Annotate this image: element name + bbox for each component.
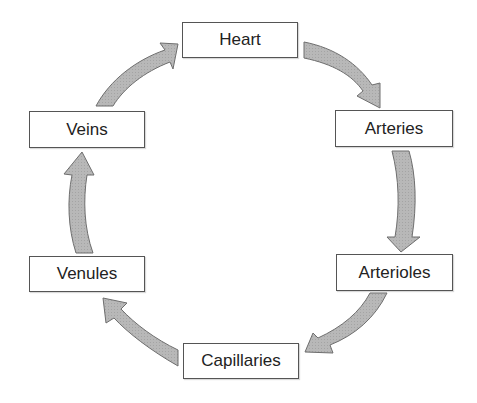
node-label-arteries: Arteries	[365, 119, 424, 139]
node-label-veins: Veins	[66, 120, 108, 140]
node-label-capillaries: Capillaries	[201, 351, 280, 371]
circulation-cycle-diagram: Heart Arteries Arterioles Capillaries Ve…	[0, 0, 477, 403]
node-heart: Heart	[182, 22, 298, 58]
node-capillaries: Capillaries	[183, 343, 299, 379]
arrow-arterioles-to-capillaries	[305, 293, 387, 353]
node-veins: Veins	[29, 111, 145, 148]
arrow-venules-to-veins	[64, 152, 94, 253]
arrow-veins-to-heart	[96, 43, 178, 106]
node-arterioles: Arterioles	[336, 254, 453, 291]
node-label-heart: Heart	[219, 30, 261, 50]
node-label-arterioles: Arterioles	[359, 263, 431, 283]
node-arteries: Arteries	[335, 110, 453, 147]
node-venules: Venules	[29, 256, 145, 292]
arrow-capillaries-to-venules	[103, 298, 178, 366]
node-label-venules: Venules	[57, 264, 118, 284]
arrow-heart-to-arteries	[304, 42, 380, 108]
arrow-arteries-to-arterioles	[387, 151, 420, 252]
